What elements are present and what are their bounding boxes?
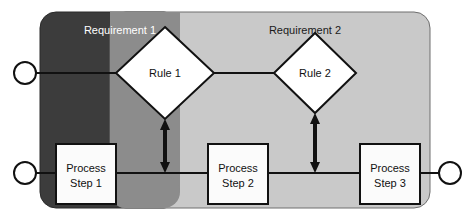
process-step-3-shape — [360, 144, 420, 204]
region-label-requirement-1: Requirement 1 — [84, 24, 156, 36]
start-rule-circle[interactable] — [14, 62, 36, 84]
process-step-nodes: ProcessStep 1ProcessStep 2ProcessStep 3 — [56, 144, 420, 204]
process-step-2-label-line1: Process — [218, 162, 258, 174]
rule-1-label: Rule 1 — [149, 67, 181, 79]
process-step-3-label-line2: Step 3 — [374, 177, 406, 189]
process-step-3[interactable]: ProcessStep 3 — [360, 144, 420, 204]
process-step-1-shape — [56, 144, 116, 204]
start-process-circle[interactable] — [14, 162, 36, 184]
process-step-1-label-line1: Process — [66, 162, 106, 174]
diagram-canvas: Requirement 1 Requirement 2 Rule 1Rule 2… — [0, 0, 475, 224]
process-step-2[interactable]: ProcessStep 2 — [208, 144, 268, 204]
flowchart-svg: Requirement 1 Requirement 2 Rule 1Rule 2… — [0, 0, 475, 224]
process-step-3-label-line1: Process — [370, 162, 410, 174]
process-step-1-label-line2: Step 1 — [70, 177, 102, 189]
rule-2-label: Rule 2 — [299, 67, 331, 79]
process-step-2-shape — [208, 144, 268, 204]
region-label-requirement-2: Requirement 2 — [269, 24, 341, 36]
end-process-circle[interactable] — [439, 162, 461, 184]
region-overlap-corner-shape — [110, 176, 180, 208]
process-step-2-label-line2: Step 2 — [222, 177, 254, 189]
process-step-1[interactable]: ProcessStep 1 — [56, 144, 116, 204]
